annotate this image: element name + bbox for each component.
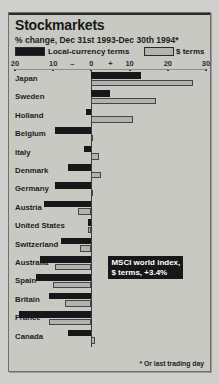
x-tick-label: 30 <box>202 59 210 68</box>
category-label: Denmark <box>15 166 48 175</box>
bar-local-currency <box>19 311 92 318</box>
category-label: Britain <box>15 295 40 304</box>
chart-row: Sweden <box>15 89 206 107</box>
bar-local-currency <box>68 164 91 171</box>
category-label: Belgium <box>15 129 46 138</box>
bar-dollar-terms <box>55 264 91 271</box>
category-label: Germany <box>15 184 49 193</box>
bar-local-currency <box>88 219 92 226</box>
bar-local-currency <box>49 293 91 300</box>
x-tick-label: 10 <box>49 59 57 68</box>
chart-row: Canada <box>15 329 206 347</box>
chart-row: Belgium <box>15 126 206 144</box>
chart-row: Denmark <box>15 163 206 181</box>
chart-row: Australia <box>15 255 206 273</box>
legend-label-dollar-terms: $ terms <box>176 47 204 56</box>
chart-row: United States <box>15 218 206 236</box>
bar-dollar-terms <box>91 337 95 344</box>
x-tick-label: 0 <box>89 59 93 68</box>
chart-subtitle: % change, Dec 31st 1993-Dec 30th 1994* <box>15 35 178 45</box>
category-label: Austria <box>15 203 42 212</box>
x-axis-sign-marker: + <box>108 59 112 68</box>
chart-row: Britain <box>15 292 206 310</box>
category-label: Japan <box>15 74 38 83</box>
plot-area: MSCI world index,$ terms, +3.4% JapanSwe… <box>15 71 206 349</box>
bar-local-currency <box>84 146 92 153</box>
bar-local-currency <box>91 90 110 97</box>
bar-local-currency <box>61 238 92 245</box>
top-rule <box>9 13 210 15</box>
x-axis-sign-marker: – <box>70 59 74 68</box>
category-label: United States <box>15 221 65 230</box>
bar-dollar-terms <box>88 227 92 234</box>
bar-local-currency <box>55 182 91 189</box>
bar-local-currency <box>86 109 92 116</box>
category-label: Sweden <box>15 92 44 101</box>
bar-local-currency <box>36 274 91 281</box>
x-tick-label: 10 <box>125 59 133 68</box>
chart-row: Japan <box>15 71 206 89</box>
x-axis-line <box>15 69 206 70</box>
chart-row: Austria <box>15 200 206 218</box>
bar-dollar-terms <box>53 282 91 289</box>
bar-dollar-terms <box>91 190 93 197</box>
x-tick-label: 20 <box>164 59 172 68</box>
chart-footnote: * Or last trading day <box>139 360 204 367</box>
chart-row: Switzerland <box>15 237 206 255</box>
category-label: Italy <box>15 148 31 157</box>
legend-swatch-dollar-terms <box>144 47 174 56</box>
chart-legend: Local-currency terms $ terms <box>15 46 206 58</box>
chart-row: France <box>15 310 206 328</box>
bar-dollar-terms <box>65 300 92 307</box>
bar-local-currency <box>40 256 92 263</box>
category-label: Spain <box>15 276 36 285</box>
chart-row: Italy <box>15 145 206 163</box>
chart-panel: Stockmarkets % change, Dec 31st 1993-Dec… <box>8 12 211 372</box>
bar-dollar-terms <box>80 245 91 252</box>
bar-dollar-terms <box>91 80 192 87</box>
bar-dollar-terms <box>91 116 133 123</box>
category-label: Switzerland <box>15 240 58 249</box>
page-title: Stockmarkets <box>15 17 104 33</box>
category-label: Canada <box>15 332 43 341</box>
bar-dollar-terms <box>91 153 99 160</box>
category-label: Holland <box>15 111 44 120</box>
bar-dollar-terms <box>91 172 101 179</box>
bar-local-currency <box>44 201 92 208</box>
legend-label-local-currency: Local-currency terms <box>48 47 129 56</box>
chart-row: Germany <box>15 181 206 199</box>
bar-local-currency <box>68 330 91 337</box>
chart-row: Spain <box>15 273 206 291</box>
chart-row: Holland <box>15 108 206 126</box>
bar-dollar-terms <box>78 208 91 215</box>
bar-dollar-terms <box>49 319 91 326</box>
legend-swatch-local-currency <box>15 47 45 56</box>
bar-dollar-terms <box>91 135 93 142</box>
bar-local-currency <box>91 72 141 79</box>
bar-dollar-terms <box>91 98 156 105</box>
x-tick-label: 20 <box>11 59 19 68</box>
bar-local-currency <box>55 127 91 134</box>
